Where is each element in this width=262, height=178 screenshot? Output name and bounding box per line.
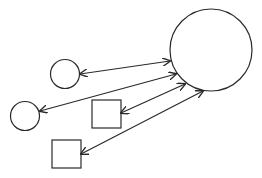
double-arrow-hub-square-a xyxy=(121,84,185,113)
diagram-nodes xyxy=(11,9,253,168)
node-circle-b-circle xyxy=(11,102,40,131)
node-square-a-square xyxy=(92,100,121,128)
node-square-b-square xyxy=(52,140,81,168)
node-hub-circle xyxy=(170,9,252,91)
double-arrow-hub-circle-b xyxy=(40,74,176,111)
node-circle-a-circle xyxy=(51,60,80,89)
hub-and-spoke-diagram xyxy=(0,0,262,178)
double-arrow-hub-circle-a xyxy=(80,61,170,74)
